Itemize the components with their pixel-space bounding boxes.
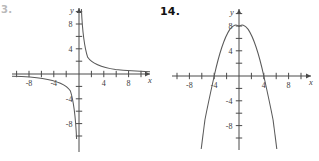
y-tick-label-4-left: 4	[69, 45, 73, 54]
figure-parabola: 14.	[159, 0, 319, 161]
x-axis-label-left: x	[147, 75, 152, 85]
x-tick-label-4-left: 4	[102, 79, 106, 88]
y-tick-label-4-right: 4	[229, 47, 233, 56]
hyperbola-branch-upper-right	[81, 9, 150, 72]
x-tick-label-8-left: 8	[127, 79, 131, 88]
y-axis-label-left: y	[69, 5, 74, 15]
y-axis-arrow-left	[77, 8, 82, 13]
x-tick-label-8-right: 8	[287, 81, 291, 90]
parabola-plot: -8 -4 4 8 8 4 -4 -8 x y	[159, 0, 319, 161]
y-tick-label-neg8-right: -8	[226, 122, 233, 131]
y-tick-label-neg8-left: -8	[66, 120, 73, 129]
hyperbola-branch-lower-left	[12, 76, 77, 139]
parabola-right-arm-extension	[273, 120, 277, 149]
parabola-left-arm-extension	[201, 120, 205, 149]
hyperbola-plot: -8 -4 4 8 8 4 -4 -8 x y	[0, 0, 159, 161]
y-tick-label-neg4-right: -4	[226, 97, 233, 106]
x-axis-label-right: x	[308, 77, 313, 87]
figure-hyperbola: 3.	[0, 0, 159, 161]
x-tick-label-neg8-right: -8	[186, 81, 193, 90]
textbook-figure-page: 3.	[0, 0, 319, 161]
x-tick-label-neg8-left: -8	[26, 79, 33, 88]
y-axis-label-right: y	[229, 7, 234, 17]
y-tick-label-8-left: 8	[69, 20, 73, 29]
